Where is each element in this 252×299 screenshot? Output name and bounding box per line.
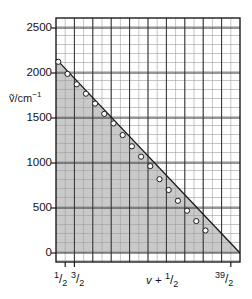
- x-axis-label-denominator: 2: [173, 279, 178, 289]
- data-point: [185, 208, 190, 213]
- data-point: [194, 219, 199, 224]
- data-point: [175, 198, 180, 203]
- xtick-label-three-halves: 3/2: [71, 270, 84, 288]
- data-point: [157, 177, 162, 182]
- xtick-half-denominator: 2: [62, 278, 67, 288]
- data-point: [166, 187, 171, 192]
- data-point: [65, 71, 70, 76]
- data-point: [139, 154, 144, 159]
- data-point: [120, 133, 125, 138]
- xtick-label-half: 1/2: [54, 270, 67, 288]
- data-point: [203, 228, 208, 233]
- xtick-three-halves-denominator: 2: [79, 278, 84, 288]
- data-point: [102, 111, 107, 116]
- data-point: [83, 91, 88, 96]
- x-axis-label-plus: +: [155, 274, 162, 286]
- data-point: [129, 144, 134, 149]
- x-axis-ticks: [65, 262, 231, 267]
- data-point: [93, 101, 98, 106]
- xtick-thirtynine-halves-numerator: 39: [215, 270, 225, 280]
- x-axis-label: v + 1/2: [146, 271, 178, 289]
- data-point: [74, 82, 79, 87]
- data-point: [111, 121, 116, 126]
- data-point: [148, 164, 153, 169]
- xtick-label-thirtynine-halves: 39/2: [215, 270, 233, 288]
- plot-canvas: [0, 0, 252, 299]
- data-point: [56, 59, 61, 64]
- birge-sponer-chart: 2500 2000 1500 1000 500 0 ṽ/cm−1: [0, 0, 252, 299]
- xtick-thirtynine-halves-denominator: 2: [228, 278, 233, 288]
